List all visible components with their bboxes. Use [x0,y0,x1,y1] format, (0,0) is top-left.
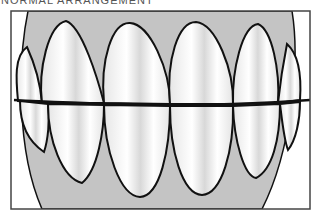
teeth-illustration [0,0,324,219]
